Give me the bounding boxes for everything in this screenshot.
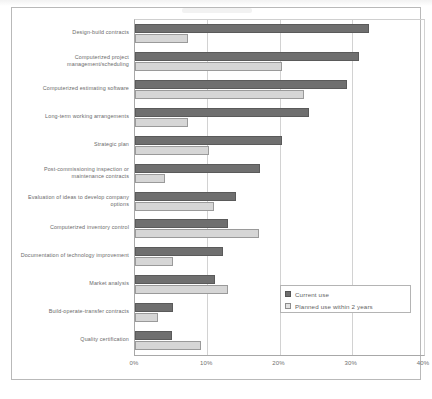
legend-label-current-use: Current use [295,291,329,298]
x-axis: 0%10%20%30%40% [134,360,425,372]
bar-current-use[interactable] [135,80,347,89]
category-label: Quality certification [17,336,129,343]
bar-planned-use[interactable] [135,174,165,183]
bar-planned-use[interactable] [135,285,228,294]
bar-group [135,218,424,245]
bar-group [135,135,424,162]
category-label: Post-commissioning inspection or mainten… [17,165,129,180]
bar-current-use[interactable] [135,247,223,256]
bar-group [135,107,424,134]
scan-artifact-top [0,0,432,6]
bar-current-use[interactable] [135,275,215,284]
bar-current-use[interactable] [135,24,369,33]
legend-swatch-planned-use-icon [285,303,291,309]
x-tick-label: 0% [129,360,138,366]
x-tick-label: 10% [200,360,213,366]
category-label: Computerized project management/scheduli… [17,54,129,69]
bar-group [135,163,424,190]
title-smudge [182,8,252,13]
legend-swatch-current-use-icon [285,291,291,297]
category-label: Market analysis [17,281,129,288]
bar-planned-use[interactable] [135,341,201,350]
bar-group [135,191,424,218]
category-label: Documentation of technology improvement [17,253,129,260]
bar-group [135,79,424,106]
bar-planned-use[interactable] [135,202,214,211]
bar-planned-use[interactable] [135,229,259,238]
bar-current-use[interactable] [135,164,260,173]
chart-legend: Current use Planned use within 2 years [280,285,411,313]
category-label: Strategic plan [17,141,129,148]
category-label: Build-operate-transfer contracts [17,308,129,315]
legend-label-planned-use: Planned use within 2 years [295,303,373,310]
category-label: Evaluation of ideas to develop company o… [17,193,129,208]
gridline-40 [424,20,425,355]
category-label: Computerized estimating software [17,85,129,92]
bar-planned-use[interactable] [135,257,173,266]
category-label: Computerized inventory control [17,225,129,232]
bar-planned-use[interactable] [135,313,158,322]
bar-group [135,330,424,357]
bar-current-use[interactable] [135,303,173,312]
legend-item-planned-use[interactable]: Planned use within 2 years [285,301,406,311]
bar-group [135,246,424,273]
chart-frame: Design-build contractsComputerized proje… [11,7,421,380]
bar-current-use[interactable] [135,192,236,201]
x-tick-label: 20% [272,360,285,366]
legend-item-current-use[interactable]: Current use [285,289,406,299]
bar-group [135,51,424,78]
bar-group [135,23,424,50]
bar-planned-use[interactable] [135,34,188,43]
bar-current-use[interactable] [135,52,359,61]
bar-planned-use[interactable] [135,62,282,71]
bar-current-use[interactable] [135,108,309,117]
category-label: Design-build contracts [17,29,129,36]
x-tick-label: 30% [344,360,357,366]
category-label: Long-term working arrangements [17,113,129,120]
bar-planned-use[interactable] [135,118,188,127]
bar-current-use[interactable] [135,331,172,340]
x-tick-label: 40% [417,360,430,366]
bar-planned-use[interactable] [135,146,209,155]
bar-planned-use[interactable] [135,90,304,99]
bar-current-use[interactable] [135,219,228,228]
bar-current-use[interactable] [135,136,282,145]
